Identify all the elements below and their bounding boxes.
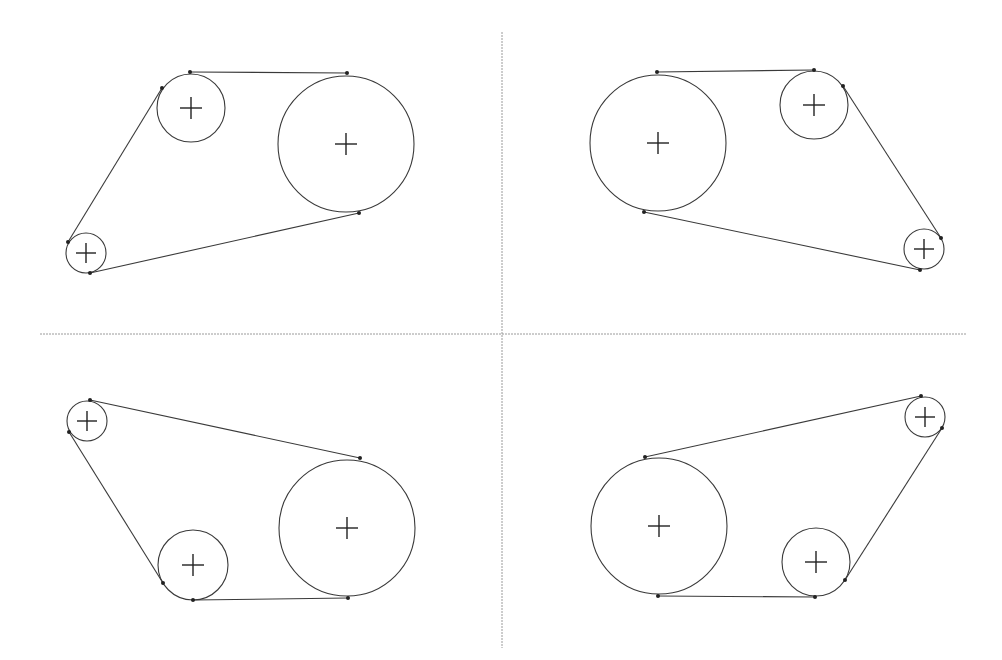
tangent-point-marker [812, 68, 816, 72]
tangent-point-marker [88, 271, 92, 275]
center-cross-icon [803, 94, 825, 116]
belt [645, 396, 942, 597]
pulley-medium [780, 71, 848, 139]
belt-segment [845, 428, 942, 580]
pulley-large [279, 460, 415, 596]
belt-segment [69, 432, 163, 583]
quadrants [66, 68, 945, 602]
center-cross-icon [336, 517, 358, 539]
center-cross-icon [648, 515, 670, 537]
pulley-medium [158, 530, 228, 600]
tangent-point-marker [655, 70, 659, 74]
tangent-point-marker [357, 211, 361, 215]
tangent-point-marker [67, 430, 71, 434]
belt-segment [190, 72, 347, 73]
center-cross-icon [76, 243, 96, 263]
tangent-point-marker [919, 394, 923, 398]
tangent-point-marker [843, 578, 847, 582]
center-cross-icon [805, 551, 827, 573]
quadrant-bottom-right [591, 394, 945, 599]
pulley-medium [157, 74, 225, 142]
pulley-large [591, 458, 727, 594]
center-cross-icon [182, 554, 204, 576]
tangent-point-marker [161, 581, 165, 585]
pulley-small [67, 401, 107, 441]
belt-segment [645, 396, 921, 457]
pulley-large [590, 75, 726, 211]
tangent-point-marker [188, 70, 192, 74]
pulley-small [905, 397, 945, 437]
center-cross-icon [915, 407, 935, 427]
tangent-point-marker [66, 240, 70, 244]
tangent-point-marker [643, 455, 647, 459]
tangent-point-marker [160, 86, 164, 90]
diagram-canvas: Belt drive pulley configurations (four m… [0, 0, 1002, 660]
tangent-point-marker [656, 594, 660, 598]
tangent-point-marker [813, 595, 817, 599]
belt-segment [193, 598, 348, 600]
quadrant-bottom-left [67, 398, 415, 602]
center-cross-icon [647, 132, 669, 154]
tangent-point-marker [642, 210, 646, 214]
tangent-point-marker [939, 236, 943, 240]
belt-segment [90, 400, 360, 458]
belt-segment [658, 596, 815, 597]
tangent-points [642, 68, 943, 272]
belt-segment [657, 70, 814, 72]
tangent-point-marker [940, 426, 944, 430]
belt-segment [644, 212, 920, 270]
quadrant-dividers [40, 32, 966, 648]
belt-segment [843, 86, 941, 238]
tangent-point-marker [88, 398, 92, 402]
pulley-medium [782, 528, 850, 596]
tangent-point-marker [918, 268, 922, 272]
belt [69, 400, 360, 600]
pulley-small [66, 233, 106, 273]
belt [644, 70, 941, 270]
center-cross-icon [914, 239, 934, 259]
belt-segment [90, 213, 359, 273]
center-cross-icon [335, 133, 357, 155]
tangent-point-marker [841, 84, 845, 88]
belt-drive-diagram: Belt drive pulley configurations (four m… [0, 0, 1002, 660]
tangent-point-marker [345, 71, 349, 75]
center-cross-icon [77, 411, 97, 431]
tangent-point-marker [346, 596, 350, 600]
quadrant-top-right [590, 68, 944, 272]
belt [68, 72, 359, 273]
center-cross-icon [180, 97, 202, 119]
quadrant-top-left [66, 70, 414, 275]
tangent-point-marker [358, 456, 362, 460]
pulley-large [278, 76, 414, 212]
tangent-point-marker [191, 598, 195, 602]
pulley-small [904, 229, 944, 269]
belt-segment [68, 88, 162, 242]
